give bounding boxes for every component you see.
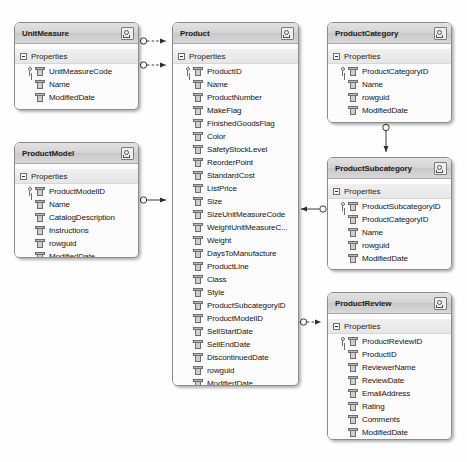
attribute-row[interactable]: Color: [173, 130, 298, 143]
entity-product[interactable]: ProductPropertiesProductIDNameProductNum…: [172, 22, 299, 386]
entity-header-productcategory[interactable]: ProductCategory: [328, 23, 451, 44]
attribute-row[interactable]: EmailAddress: [328, 387, 451, 400]
attribute-row[interactable]: ListPrice: [173, 182, 298, 195]
collapse-chevron-icon[interactable]: [434, 162, 447, 175]
attribute-row[interactable]: Size: [173, 195, 298, 208]
connector-productsubcategory-product[interactable]: [301, 206, 326, 212]
attribute-row[interactable]: Name: [328, 78, 451, 91]
entity-header-productsubcategory[interactable]: ProductSubcategory: [328, 158, 451, 179]
attribute-row[interactable]: Name: [15, 78, 138, 91]
attribute-row[interactable]: SafetyStockLevel: [173, 143, 298, 156]
attribute-name: Name: [362, 80, 383, 89]
attribute-row[interactable]: rowguid: [173, 364, 298, 377]
connector-unitmeasure-product-2[interactable]: [140, 62, 166, 68]
attribute-row[interactable]: Comments: [328, 413, 451, 426]
connector-unitmeasure-product-1[interactable]: [140, 38, 166, 44]
property-icon: [193, 275, 203, 284]
connector-productmodel-product[interactable]: [140, 197, 166, 203]
diagram-canvas[interactable]: UnitMeasurePropertiesUnitMeasureCodeName…: [0, 0, 467, 462]
property-icon: [193, 93, 203, 102]
properties-compartment[interactable]: Properties: [328, 184, 451, 199]
properties-compartment[interactable]: Properties: [173, 49, 298, 64]
attribute-row[interactable]: ProductCategoryID: [328, 213, 451, 226]
attribute-row[interactable]: Weight: [173, 234, 298, 247]
attribute-row[interactable]: Name: [173, 78, 298, 91]
properties-compartment[interactable]: Properties: [15, 49, 138, 64]
property-icon: [193, 379, 203, 386]
entity-header-unitmeasure[interactable]: UnitMeasure: [15, 23, 138, 44]
collapse-chevron-icon[interactable]: [121, 27, 134, 40]
entity-header-productmodel[interactable]: ProductModel: [15, 143, 138, 164]
collapse-chevron-icon[interactable]: [281, 27, 294, 40]
entity-productsubcategory[interactable]: ProductSubcategoryPropertiesProductSubca…: [327, 157, 452, 270]
compartment-label: Properties: [189, 52, 225, 61]
attribute-row[interactable]: CatalogDescription: [15, 211, 138, 224]
attribute-row-primary-key[interactable]: UnitMeasureCode: [15, 65, 138, 78]
entity-header-productreview[interactable]: ProductReview: [328, 293, 451, 314]
attribute-row[interactable]: ReorderPoint: [173, 156, 298, 169]
minus-box-icon[interactable]: [178, 53, 185, 60]
minus-box-icon[interactable]: [20, 53, 27, 60]
attribute-row[interactable]: SellEndDate: [173, 338, 298, 351]
attribute-row-primary-key[interactable]: ProductReviewID: [328, 335, 451, 348]
collapse-chevron-icon[interactable]: [121, 147, 134, 160]
entity-unitmeasure[interactable]: UnitMeasurePropertiesUnitMeasureCodeName…: [14, 22, 139, 110]
attribute-row[interactable]: ModifiedDate: [173, 377, 298, 386]
attribute-row[interactable]: Instructions: [15, 224, 138, 237]
property-icon: [348, 363, 358, 372]
minus-box-icon[interactable]: [333, 53, 340, 60]
property-icon: [348, 376, 358, 385]
attribute-row[interactable]: ReviewerName: [328, 361, 451, 374]
collapse-chevron-icon[interactable]: [434, 27, 447, 40]
attribute-row[interactable]: DiscontinuedDate: [173, 351, 298, 364]
attribute-row[interactable]: ProductModelID: [173, 312, 298, 325]
properties-compartment[interactable]: Properties: [328, 319, 451, 334]
attribute-row[interactable]: ModifiedDate: [328, 426, 451, 439]
attribute-row[interactable]: Name: [328, 226, 451, 239]
property-icon: [348, 241, 358, 250]
attribute-row[interactable]: ProductLine: [173, 260, 298, 273]
attribute-row[interactable]: SellStartDate: [173, 325, 298, 338]
key-slot-empty: [185, 379, 192, 386]
attribute-row[interactable]: ProductID: [328, 348, 451, 361]
entity-productreview[interactable]: ProductReviewPropertiesProductReviewIDPr…: [327, 292, 452, 440]
attribute-row[interactable]: Name: [15, 198, 138, 211]
attribute-row-primary-key[interactable]: ProductID: [173, 65, 298, 78]
entity-productcategory[interactable]: ProductCategoryPropertiesProductCategory…: [327, 22, 452, 123]
key-slot-empty: [340, 428, 347, 437]
minus-box-icon[interactable]: [333, 323, 340, 330]
entity-header-product[interactable]: Product: [173, 23, 298, 44]
attribute-row[interactable]: WeightUnitMeasureC...: [173, 221, 298, 234]
attribute-row[interactable]: Class: [173, 273, 298, 286]
attribute-row[interactable]: DaysToManufacture: [173, 247, 298, 260]
attribute-row[interactable]: MakeFlag: [173, 104, 298, 117]
collapse-chevron-icon[interactable]: [434, 297, 447, 310]
entity-productmodel[interactable]: ProductModelPropertiesProductModelIDName…: [14, 142, 139, 258]
attribute-row-primary-key[interactable]: ProductModelID: [15, 185, 138, 198]
attribute-row[interactable]: SizeUnitMeasureCode: [173, 208, 298, 221]
attribute-row[interactable]: ModifiedDate: [328, 104, 451, 117]
connector-productcategory-productsubcategory[interactable]: [383, 124, 389, 152]
connector-product-productreview[interactable]: [300, 319, 321, 325]
minus-box-icon[interactable]: [333, 188, 340, 195]
attribute-row[interactable]: rowguid: [15, 237, 138, 250]
attribute-row[interactable]: FinishedGoodsFlag: [173, 117, 298, 130]
attribute-row[interactable]: ReviewDate: [328, 374, 451, 387]
attribute-row[interactable]: ProductNumber: [173, 91, 298, 104]
attribute-row[interactable]: ModifiedDate: [15, 250, 138, 258]
attribute-row[interactable]: StandardCost: [173, 169, 298, 182]
attribute-row[interactable]: rowguid: [328, 239, 451, 252]
attribute-row[interactable]: ModifiedDate: [15, 91, 138, 104]
attribute-name: Color: [207, 132, 226, 141]
attribute-row[interactable]: ModifiedDate: [328, 252, 451, 265]
attribute-row-primary-key[interactable]: ProductSubcategoryID: [328, 200, 451, 213]
properties-compartment[interactable]: Properties: [328, 49, 451, 64]
attribute-row[interactable]: Style: [173, 286, 298, 299]
attribute-row[interactable]: ProductSubcategoryID: [173, 299, 298, 312]
attribute-row-primary-key[interactable]: ProductCategoryID: [328, 65, 451, 78]
attribute-row[interactable]: rowguid: [328, 91, 451, 104]
attribute-name: Name: [49, 80, 70, 89]
properties-compartment[interactable]: Properties: [15, 169, 138, 184]
attribute-row[interactable]: Rating: [328, 400, 451, 413]
minus-box-icon[interactable]: [20, 173, 27, 180]
